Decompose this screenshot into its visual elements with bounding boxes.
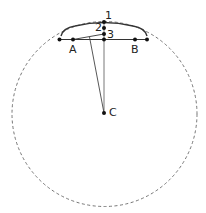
label-c: C <box>109 106 117 119</box>
geometry-diagram: 1 2 3 A B C <box>0 0 206 213</box>
point-3 <box>102 32 106 36</box>
label-3: 3 <box>107 28 114 41</box>
slanted-line-to-c <box>90 37 105 113</box>
point-a <box>71 38 75 42</box>
point-c <box>102 111 106 115</box>
point-chord-left-end <box>58 38 62 42</box>
label-2: 2 <box>95 21 102 34</box>
line-a-to-3 <box>73 34 104 40</box>
point-chord-right-end <box>145 38 149 42</box>
label-1: 1 <box>105 9 112 22</box>
label-a: A <box>69 43 77 56</box>
point-2 <box>102 26 106 30</box>
label-b: B <box>131 43 139 56</box>
point-b <box>133 38 137 42</box>
point-chord-mid <box>102 38 106 42</box>
